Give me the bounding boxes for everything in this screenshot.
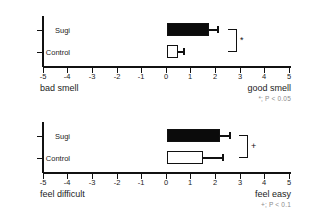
x-tick-label-smell: 3 — [231, 72, 249, 81]
panel-ease: -5 -4 -3 -2 -1 0 1 2 3 4 5 Sugi Control … — [0, 106, 329, 213]
axis-end-label-right-ease: feel easy — [255, 189, 291, 199]
x-axis-line-smell — [43, 66, 291, 68]
significance-mark-smell: * — [240, 36, 244, 45]
panel-smell: -5 -4 -3 -2 -1 0 1 2 3 4 5 Sugi Control — [0, 0, 329, 107]
significance-mark-ease: + — [251, 142, 256, 151]
plot-area-smell: -5 -4 -3 -2 -1 0 1 2 3 4 5 Sugi Control — [0, 0, 329, 107]
p-note-text-smell: ; P < 0.05 — [261, 95, 291, 102]
bar-sugi-smell — [167, 23, 209, 36]
axis-end-label-right-smell: good smell — [247, 83, 291, 93]
x-tick-label-ease: 5 — [280, 178, 298, 187]
bar-control-ease — [167, 151, 203, 164]
significance-bracket-smell — [228, 29, 237, 52]
x-tick-label-smell: 1 — [181, 72, 199, 81]
x-tick-label-smell: -1 — [132, 72, 150, 81]
category-label-sugi-smell: Sugi — [55, 26, 70, 35]
x-tick-label-ease: 1 — [181, 178, 199, 187]
p-value-note-smell: *; P < 0.05 — [258, 95, 291, 102]
y-tick-ease-control — [37, 158, 43, 159]
x-tick-label-ease: 4 — [255, 178, 273, 187]
y-tick-smell-control — [37, 52, 43, 53]
axis-end-label-left-ease: feel difficult — [40, 189, 85, 199]
category-label-control-smell: Control — [46, 48, 70, 57]
x-tick-label-ease: 3 — [231, 178, 249, 187]
p-note-text-ease: ; P < 0.1 — [265, 201, 291, 208]
x-tick-label-ease: -5 — [34, 178, 52, 187]
category-label-sugi-ease: Sugi — [55, 132, 70, 141]
x-tick-label-smell: 4 — [255, 72, 273, 81]
y-tick-ease-sugi — [37, 136, 43, 137]
error-bar-cap-control-ease — [222, 154, 224, 161]
x-axis-line-ease — [43, 172, 291, 174]
x-tick-label-smell: 5 — [280, 72, 298, 81]
x-tick-label-smell: -3 — [83, 72, 101, 81]
figure-two-panel-bar-charts: -5 -4 -3 -2 -1 0 1 2 3 4 5 Sugi Control — [0, 0, 329, 213]
y-tick-smell-sugi — [37, 30, 43, 31]
error-bar-cap-sugi-smell — [217, 26, 219, 33]
x-tick-label-ease: 0 — [157, 178, 175, 187]
x-tick-label-ease: -3 — [83, 178, 101, 187]
error-bar-cap-control-smell — [183, 48, 185, 55]
x-tick-label-ease: 2 — [206, 178, 224, 187]
x-tick-label-ease: -4 — [58, 178, 76, 187]
error-bar-cap-sugi-ease — [229, 132, 231, 139]
significance-bracket-ease — [239, 135, 248, 158]
error-bar-line-control-ease — [202, 157, 223, 159]
x-tick-label-smell: -5 — [34, 72, 52, 81]
x-tick-label-ease: -2 — [108, 178, 126, 187]
x-tick-label-smell: -4 — [58, 72, 76, 81]
axis-end-label-left-smell: bad smell — [40, 83, 79, 93]
category-label-control-ease: Control — [46, 154, 70, 163]
x-tick-label-smell: -2 — [108, 72, 126, 81]
y-axis-line-smell — [42, 16, 44, 67]
plot-area-ease: -5 -4 -3 -2 -1 0 1 2 3 4 5 Sugi Control … — [0, 106, 329, 213]
x-tick-label-smell: 2 — [206, 72, 224, 81]
p-value-note-ease: +; P < 0.1 — [261, 201, 291, 208]
y-axis-line-ease — [42, 122, 44, 173]
x-tick-label-smell: 0 — [157, 72, 175, 81]
x-tick-label-ease: -1 — [132, 178, 150, 187]
bar-sugi-ease — [167, 129, 220, 142]
